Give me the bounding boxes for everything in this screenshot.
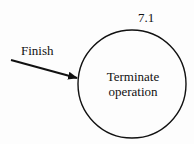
process-label-line1: Terminate [107, 69, 160, 84]
process-id-label: 7.1 [138, 10, 154, 25]
finish-flow-label: Finish [21, 43, 54, 58]
diagram-canvas: Finish 7.1 Terminate operation [0, 0, 194, 144]
process-label-line2: operation [108, 84, 158, 99]
diagram-svg: Finish 7.1 Terminate operation [0, 0, 194, 144]
finish-flow-arrow[interactable] [11, 60, 77, 78]
